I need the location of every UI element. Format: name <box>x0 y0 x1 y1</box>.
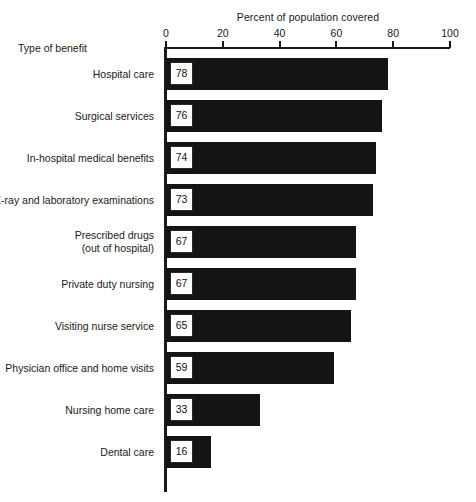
bar-rows: Hospital care78Surgical services76In-hos… <box>0 0 476 502</box>
bar <box>166 184 373 216</box>
bar-category-label-line2: (out of hospital) <box>75 242 154 255</box>
bar-category-label: Physician office and home visits <box>5 362 154 375</box>
bar-category-label-line1: In-hospital medical benefits <box>27 152 154 164</box>
bar-category-label-line1: Nursing home care <box>65 404 154 416</box>
bar-category-label-line1: Visiting nurse service <box>55 320 154 332</box>
bar <box>166 58 388 90</box>
bar-category-label: Surgical services <box>75 110 154 123</box>
bar-category-label-line1: Hospital care <box>93 68 154 80</box>
bar <box>166 310 351 342</box>
bar-value-label: 74 <box>170 146 193 169</box>
bar-value-label: 16 <box>170 440 193 463</box>
bar-category-label: In-hospital medical benefits <box>27 152 154 165</box>
bar <box>166 100 382 132</box>
bar-value-label: 33 <box>170 398 193 421</box>
bar-category-label: Dental care <box>100 446 154 459</box>
bar-row: Prescribed drugs(out of hospital)67 <box>0 226 476 258</box>
bar-row: Visiting nurse service65 <box>0 310 476 342</box>
bar-category-label: Visiting nurse service <box>55 320 154 333</box>
bar-category-label: Prescribed drugs(out of hospital) <box>75 229 154 255</box>
bar-value-label: 67 <box>170 272 193 295</box>
bar-value-label: 73 <box>170 188 193 211</box>
bar <box>166 268 356 300</box>
bar-value-label: 65 <box>170 314 193 337</box>
bar-category-label-line1: X-ray and laboratory examinations <box>0 194 154 206</box>
bar-value-label: 59 <box>170 356 193 379</box>
bar-row: Dental care16 <box>0 436 476 468</box>
bar-category-label-line1: Private duty nursing <box>61 278 154 290</box>
bar-category-label: Hospital care <box>93 68 154 81</box>
bar-category-label: Nursing home care <box>65 404 154 417</box>
bar <box>166 226 356 258</box>
bar <box>166 142 376 174</box>
bar-value-label: 76 <box>170 104 193 127</box>
bar-category-label-line1: Physician office and home visits <box>5 362 154 374</box>
bar-row: In-hospital medical benefits74 <box>0 142 476 174</box>
bar-category-label-line1: Dental care <box>100 446 154 458</box>
bar-row: Nursing home care33 <box>0 394 476 426</box>
bar-row: Physician office and home visits59 <box>0 352 476 384</box>
horizontal-bar-chart: Percent of population covered Type of be… <box>0 0 476 502</box>
bar-category-label: Private duty nursing <box>61 278 154 291</box>
bar-category-label-line1: Surgical services <box>75 110 154 122</box>
bar-value-label: 78 <box>170 62 193 85</box>
bar-category-label-line1: Prescribed drugs <box>75 229 154 241</box>
bar-value-label: 67 <box>170 230 193 253</box>
bar-row: Surgical services76 <box>0 100 476 132</box>
bar-row: Hospital care78 <box>0 58 476 90</box>
bar-row: Private duty nursing67 <box>0 268 476 300</box>
bar-row: X-ray and laboratory examinations73 <box>0 184 476 216</box>
bar-category-label: X-ray and laboratory examinations <box>0 194 154 207</box>
